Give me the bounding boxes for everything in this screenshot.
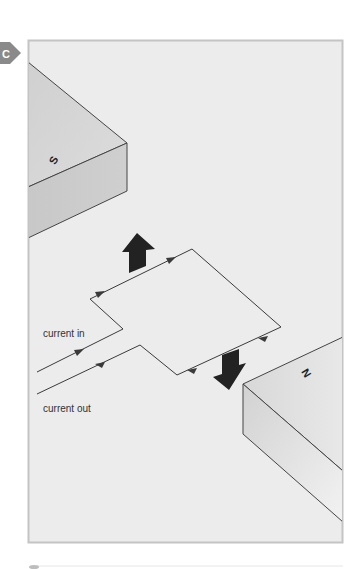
footer-dot	[29, 565, 39, 569]
motor-effect-diagram: C S N current in current out	[0, 0, 361, 569]
current-out-label: current out	[43, 403, 91, 414]
panel-badge: C	[0, 42, 21, 64]
current-in-label: current in	[43, 328, 85, 339]
badge-letter: C	[2, 48, 10, 60]
